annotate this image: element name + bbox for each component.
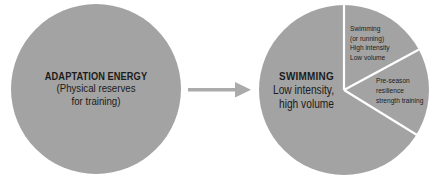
adaptation-energy-subtitle-line-1: (Physical reserves xyxy=(34,82,157,95)
adaptation-energy-subtitle-line-2: for training) xyxy=(34,95,157,108)
middle-slice-line-3: strength training xyxy=(376,96,438,106)
top-slice-line-1: Swimming xyxy=(350,24,412,34)
adaptation-energy-label: ADAPTATION ENERGY (Physical reserves for… xyxy=(26,70,166,108)
top-slice-line-3: High intensity xyxy=(350,43,412,53)
swimming-title: SWIMMING xyxy=(258,70,334,83)
middle-slice-line-1: Pre-season xyxy=(376,76,438,86)
adaptation-energy-title: ADAPTATION ENERGY xyxy=(34,70,157,82)
arrow-right-icon xyxy=(188,82,251,98)
strength-training-slice-label: Pre-season resilience strength training xyxy=(376,76,438,106)
middle-slice-line-2: resilience xyxy=(376,86,438,96)
swimming-subtitle-line-1: Low intensity, xyxy=(263,83,334,97)
top-slice-line-2: (or running) xyxy=(350,34,412,44)
top-slice-line-4: Low volume xyxy=(350,53,412,63)
swimming-subtitle-line-2: high volume xyxy=(263,97,334,111)
swimming-main-label: SWIMMING Low intensity, high volume xyxy=(250,70,334,111)
high-intensity-slice-label: Swimming (or running) High intensity Low… xyxy=(350,24,412,62)
